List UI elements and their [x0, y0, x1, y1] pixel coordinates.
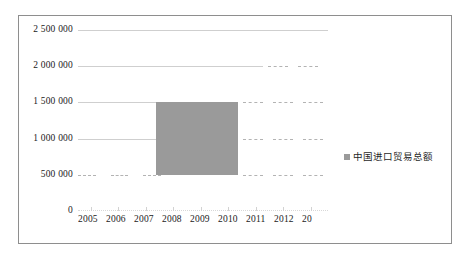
- gridline-1000000: [78, 139, 156, 140]
- gridline-1500000-dash-3: [303, 102, 323, 103]
- y-axis-label-0: 0: [68, 206, 73, 216]
- y-axis-label-2000000: 2 000 000: [33, 61, 73, 71]
- series-color-swatch-icon: [344, 154, 350, 160]
- data-bar-series-1: [156, 102, 239, 174]
- category-axis: [78, 210, 328, 211]
- x-axis-label-2009: 2009: [190, 215, 210, 225]
- x-axis-tick-2010: [228, 207, 229, 211]
- gridline-2000000-dash-2: [298, 66, 318, 67]
- gridline-500000-dash-6: [303, 175, 323, 176]
- gridline-1000000-dash-1: [243, 139, 263, 140]
- gridline-500000-dash-5: [273, 175, 293, 176]
- gridline-1000000-dash-3: [303, 139, 323, 140]
- x-axis-tick-2008: [173, 207, 174, 211]
- gridline-2500000: [78, 30, 328, 31]
- x-axis-tick-2005: [91, 207, 92, 211]
- gridline-1500000: [78, 102, 156, 103]
- x-axis-label-2012: 2012: [274, 215, 294, 225]
- gridline-1000000-dash-2: [273, 139, 293, 140]
- gridline-2000000-dash-1: [268, 66, 288, 67]
- y-axis-label-1000000: 1 000 000: [33, 134, 73, 144]
- gridline-1500000-dash-1: [243, 102, 263, 103]
- plot-area: [78, 30, 328, 211]
- x-axis-tick-2013: [311, 207, 312, 211]
- x-axis-label-truncated: 20: [302, 215, 312, 225]
- gridline-500000-dash-2: [111, 175, 129, 176]
- y-axis-label-1500000: 1 500 000: [33, 98, 73, 108]
- gridline-500000-dash-4: [243, 175, 263, 176]
- gridline-500000-dash-1: [78, 175, 96, 176]
- legend-item-label: 中国进口贸易总额: [353, 152, 433, 162]
- gridline-1500000-dash-2: [273, 102, 293, 103]
- y-axis-label-group: 2 500 000 2 000 000 1 500 000 1 000 000 …: [19, 30, 73, 211]
- y-axis-label-500000: 500 000: [41, 170, 73, 180]
- chart-legend: 中国进口贸易总额: [344, 152, 433, 162]
- gridline-2000000: [78, 66, 263, 67]
- x-axis-tick-2006: [118, 207, 119, 211]
- gridline-500000-dash-3: [143, 175, 161, 176]
- x-axis-label-2008: 2008: [162, 215, 182, 225]
- x-axis-label-2010: 2010: [218, 215, 238, 225]
- chart-figure-frame: 2 500 000 2 000 000 1 500 000 1 000 000 …: [18, 15, 452, 244]
- y-axis-label-2500000: 2 500 000: [33, 25, 73, 35]
- x-axis-label-2011: 2011: [246, 215, 265, 225]
- x-axis-tick-2011: [256, 207, 257, 211]
- x-axis-label-group: 2005 2006 2007 2008 2009 2010 2011 2012 …: [78, 215, 338, 231]
- x-axis-tick-2007: [146, 207, 147, 211]
- x-axis-tick-2012: [283, 207, 284, 211]
- x-axis-label-2006: 2006: [106, 215, 126, 225]
- x-axis-tick-2009: [201, 207, 202, 211]
- x-axis-label-2007: 2007: [134, 215, 154, 225]
- x-axis-label-2005: 2005: [78, 215, 98, 225]
